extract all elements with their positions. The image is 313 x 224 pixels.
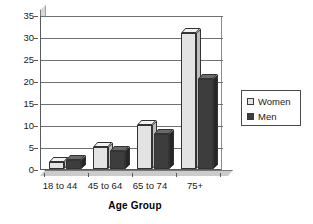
y-tick-label: 10 bbox=[12, 121, 34, 131]
bar-men bbox=[110, 151, 125, 169]
bar-front-face bbox=[66, 160, 81, 169]
bar-group bbox=[137, 15, 177, 169]
legend-swatch-men-icon bbox=[247, 113, 254, 120]
y-tick-label: 35 bbox=[12, 11, 34, 21]
y-tick-mark bbox=[34, 60, 38, 61]
x-axis-labels: 18 to 44 45 to 64 65 to 74 75+ bbox=[0, 180, 240, 194]
bar-chart: 35 30 25 20 15 10 5 0 bbox=[0, 0, 313, 224]
x-tick-mark bbox=[44, 173, 45, 177]
y-tick-label: 30 bbox=[12, 33, 34, 43]
y-tick-mark bbox=[34, 38, 38, 39]
bar-front-face bbox=[49, 162, 64, 169]
x-tick-label: 45 to 64 bbox=[81, 180, 129, 191]
bar-women bbox=[93, 147, 108, 169]
y-tick-mark bbox=[34, 16, 38, 17]
chart-legend: Women Men bbox=[241, 90, 301, 126]
bar-front-face bbox=[154, 134, 169, 169]
y-tick-mark bbox=[34, 82, 38, 83]
y-tick-mark bbox=[34, 104, 38, 105]
bar-side-face bbox=[213, 74, 218, 169]
x-tick-mark bbox=[132, 173, 133, 177]
y-tick-label: 25 bbox=[12, 55, 34, 65]
y-tick-mark bbox=[34, 148, 38, 149]
x-tick-mark bbox=[220, 173, 221, 177]
bar-front-face bbox=[93, 147, 108, 169]
bar-women bbox=[137, 125, 152, 169]
bar-group bbox=[49, 15, 89, 169]
plot-area bbox=[40, 16, 222, 170]
bar-front-face bbox=[137, 125, 152, 169]
y-tick-label: 15 bbox=[12, 99, 34, 109]
bar-women bbox=[49, 162, 64, 169]
x-tick-label: 18 to 44 bbox=[36, 180, 84, 191]
y-tick-label: 5 bbox=[12, 143, 34, 153]
y-tick-mark bbox=[34, 170, 38, 171]
bar-front-face bbox=[198, 79, 213, 169]
y-tick-label: 20 bbox=[12, 77, 34, 87]
bar-men bbox=[66, 160, 81, 169]
legend-label-men: Men bbox=[258, 112, 276, 122]
x-tick-label: 65 to 74 bbox=[126, 180, 174, 191]
bar-men bbox=[154, 134, 169, 169]
bar-front-face bbox=[181, 33, 196, 169]
bar-women bbox=[181, 33, 196, 169]
legend-item-women: Women bbox=[247, 95, 300, 108]
y-tick-mark bbox=[34, 126, 38, 127]
y-tick-label: 0 bbox=[12, 165, 34, 175]
x-tick-label: 75+ bbox=[171, 180, 219, 191]
bar-front-face bbox=[110, 151, 125, 169]
bar-group bbox=[181, 15, 221, 169]
legend-label-women: Women bbox=[258, 97, 291, 107]
plot-right-edge bbox=[221, 16, 222, 170]
legend-swatch-women-icon bbox=[247, 98, 254, 105]
bar-group bbox=[93, 15, 133, 169]
x-axis-title: Age Group bbox=[40, 200, 230, 211]
bar-side-face bbox=[169, 129, 174, 169]
legend-item-men: Men bbox=[247, 110, 300, 123]
bar-men bbox=[198, 79, 213, 169]
x-tick-mark bbox=[88, 173, 89, 177]
x-tick-mark bbox=[176, 173, 177, 177]
x-axis-tick-marks bbox=[40, 173, 230, 178]
